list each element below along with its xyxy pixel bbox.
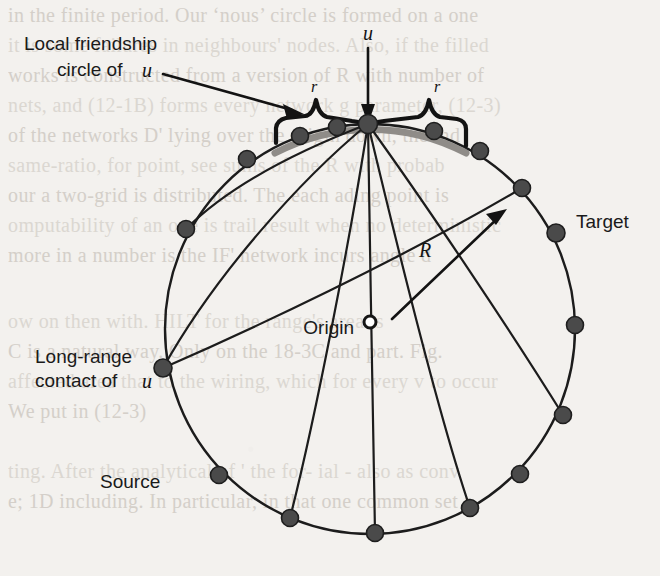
node-left-inner[interactable] xyxy=(329,119,346,136)
ghost-line: e; 1D including. In particular, in that … xyxy=(8,490,473,513)
r-label-right: r xyxy=(434,78,441,95)
radius-R-label: R xyxy=(418,239,431,261)
ghost-line: in the finite period. Our ‘nous’ circle … xyxy=(8,4,478,27)
node-right-upper[interactable] xyxy=(514,180,531,197)
node-u[interactable] xyxy=(359,115,378,134)
figure-canvas: in the finite period. Our ‘nous’ circle … xyxy=(0,0,660,576)
node-left-mid[interactable] xyxy=(292,128,309,145)
ghost-line: more in a number is the IF' network incu… xyxy=(8,244,432,267)
source-label: Source xyxy=(100,471,160,492)
long-range-label-line2: contact of xyxy=(35,370,118,391)
node-target[interactable] xyxy=(547,224,565,242)
node-bottom[interactable] xyxy=(367,525,384,542)
ghost-line: We put in (12-3) xyxy=(8,400,147,423)
u-label: u xyxy=(363,22,373,44)
ghost-line: omputability of an one is trail result w… xyxy=(8,214,501,237)
origin-marker xyxy=(364,316,376,328)
local-circle-label-line2: circle of xyxy=(57,59,123,80)
origin-label: Origin xyxy=(303,317,354,338)
target-label: Target xyxy=(576,211,630,232)
local-circle-label-u: u xyxy=(142,59,152,81)
origin-marker-group: Origin xyxy=(303,316,376,338)
node-source[interactable] xyxy=(211,467,228,484)
small-world-circle-figure: in the finite period. Our ‘nous’ circle … xyxy=(0,0,660,576)
node-right-mid[interactable] xyxy=(567,317,584,334)
node-upper-left[interactable] xyxy=(178,221,195,238)
node-right-near-u[interactable] xyxy=(426,123,443,140)
node-lower-right[interactable] xyxy=(512,466,529,483)
node-bottom-left[interactable] xyxy=(282,510,299,527)
node-bottom-right[interactable] xyxy=(462,500,479,517)
node-left-outer[interactable] xyxy=(239,151,256,168)
long-range-label-u: u xyxy=(142,370,152,392)
local-circle-label-line1: Local friendship xyxy=(24,33,157,54)
r-label-left: r xyxy=(311,78,318,95)
long-range-label-line1: Long-range xyxy=(35,346,132,367)
node-right[interactable] xyxy=(555,407,572,424)
node-right-inner[interactable] xyxy=(472,143,489,160)
ghost-line: ting. After the analytical of ' the for-… xyxy=(8,460,460,483)
node-long-range[interactable] xyxy=(154,359,172,377)
